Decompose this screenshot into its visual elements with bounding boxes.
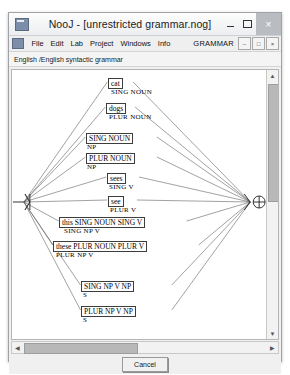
menu-item-info[interactable]: Info <box>154 39 174 48</box>
window-title-bar[interactable]: NooJ - [unrestricted grammar.nog] × <box>9 13 281 36</box>
menu-item-edit[interactable]: Edit <box>47 39 67 48</box>
document-header-bar: English /English syntactic grammar <box>9 52 281 67</box>
graph-node-label: PLUR V <box>110 206 136 214</box>
window-title: NooJ - [unrestricted grammar.nog] <box>33 18 227 30</box>
graph-node-label: NP <box>87 143 97 151</box>
graph-node-label: S <box>83 291 87 299</box>
menu-mode-grammar: GRAMMAR <box>190 39 238 48</box>
window-minimize-button[interactable] <box>222 13 239 35</box>
document-header-text: English /English syntactic grammar <box>14 56 123 63</box>
mdi-minimize-button[interactable]: – <box>238 37 251 50</box>
graph-node-label: NP <box>87 163 97 171</box>
cancel-button[interactable]: Cancel <box>122 357 168 372</box>
screenshot-root: NooJ - [unrestricted grammar.nog] × File… <box>0 0 290 375</box>
window-controls: × <box>222 13 281 35</box>
mdi-window-icon <box>12 38 24 49</box>
menu-item-project[interactable]: Project <box>87 39 117 48</box>
app-window-icon <box>15 18 29 31</box>
scroll-down-arrow-icon[interactable]: ▼ <box>267 328 278 339</box>
horizontal-scroll-thumb[interactable] <box>24 343 138 354</box>
window-maximize-button[interactable] <box>239 13 256 35</box>
grammar-graph-canvas[interactable]: cat SING NOUN dogs PLUR NOUN SING NOUN N… <box>11 69 279 340</box>
grammar-graph-edges <box>12 70 278 339</box>
graph-node-label: SING NOUN <box>111 88 152 96</box>
mdi-restore-button[interactable]: □ <box>252 37 265 50</box>
graph-node-label: SING NP V <box>64 227 100 235</box>
menu-item-file[interactable]: File <box>28 39 47 48</box>
scroll-left-arrow-icon[interactable]: ◀ <box>12 342 23 353</box>
mdi-window-controls: – □ × <box>238 37 279 50</box>
scroll-right-arrow-icon[interactable]: ▶ <box>267 342 278 353</box>
mdi-close-button[interactable]: × <box>266 37 279 50</box>
graph-node-label: S <box>83 316 87 324</box>
graph-node-label: PLUR NP V <box>56 251 94 259</box>
menu-item-windows[interactable]: Windows <box>117 39 154 48</box>
window-footer: Cancel <box>9 354 281 374</box>
graph-node[interactable]: SING NP V NP <box>81 281 134 292</box>
graph-node-label: PLUR NOUN <box>109 113 152 121</box>
graph-node[interactable]: PLUR NP V NP <box>81 306 136 317</box>
nooj-main-window: NooJ - [unrestricted grammar.nog] × File… <box>8 12 282 362</box>
vertical-scroll-thumb[interactable] <box>268 84 279 202</box>
menu-bar: File Edit Lab Project Windows Info GRAMM… <box>9 36 281 52</box>
graph-node-label: SING V <box>109 183 134 191</box>
horizontal-scrollbar[interactable]: ◀ ▶ <box>11 341 279 354</box>
window-close-button[interactable]: × <box>256 13 281 35</box>
scroll-up-arrow-icon[interactable]: ▲ <box>267 70 278 81</box>
menu-item-lab[interactable]: Lab <box>67 39 87 48</box>
vertical-scrollbar[interactable]: ▲ ▼ <box>266 70 278 339</box>
